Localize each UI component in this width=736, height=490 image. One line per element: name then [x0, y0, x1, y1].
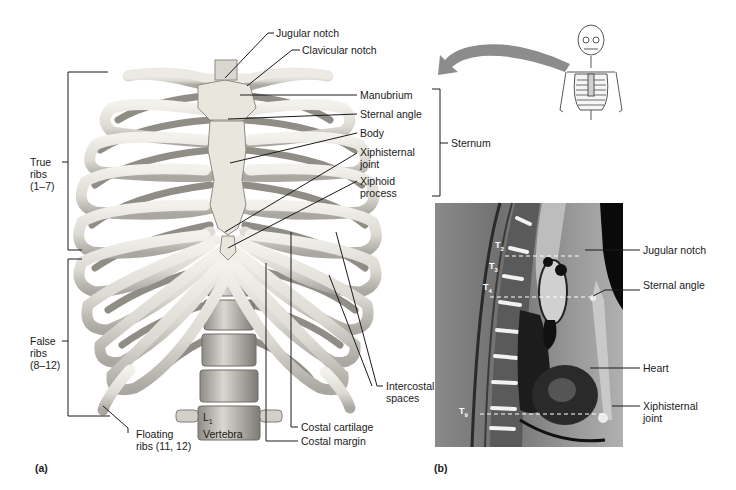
mri-label-t9: T9: [459, 406, 468, 418]
mri-label-t2: T2: [495, 240, 504, 252]
mri-label-xiphisternal-joint: Xiphisternal joint: [643, 400, 698, 424]
mri-label-t3: T3: [489, 261, 498, 273]
mri-label-jugular-notch: Jugular notch: [643, 244, 706, 256]
mri-label-xiphisternal-joint-line2: joint: [643, 412, 698, 424]
mri-label-xiphisternal-joint-line1: Xiphisternal: [643, 400, 698, 412]
mri-sagittal-image: [0, 0, 736, 490]
mri-label-sternal-angle: Sternal angle: [643, 279, 705, 291]
mri-label-t4: T4: [483, 282, 492, 294]
panel-b-tag: (b): [434, 462, 447, 474]
mri-label-heart: Heart: [643, 362, 669, 374]
